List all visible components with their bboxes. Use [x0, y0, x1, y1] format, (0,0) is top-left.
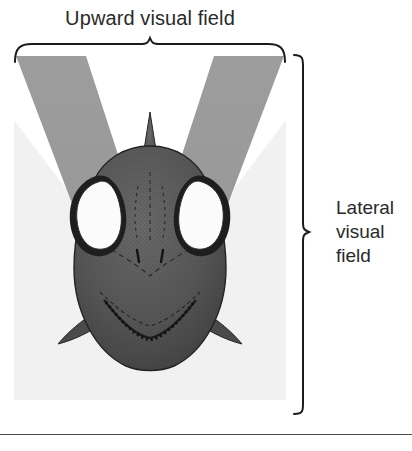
lateral-label-line-3: field: [336, 244, 412, 268]
figure-root: Upward visual field: [0, 0, 412, 451]
right-brace: [294, 55, 309, 414]
lateral-visual-field-label: Lateral visual field: [336, 196, 412, 268]
figure-divider-rule: [0, 434, 412, 435]
lateral-label-line-2: visual: [336, 220, 412, 244]
lateral-label-line-1: Lateral: [336, 196, 412, 220]
